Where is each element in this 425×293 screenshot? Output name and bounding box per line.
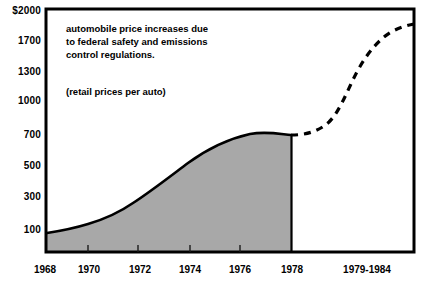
x-tick-label-1970: 1970 bbox=[78, 265, 100, 275]
line-projected bbox=[291, 24, 414, 135]
x-tick-label-1974: 1974 bbox=[179, 265, 201, 275]
chart-annotation-main: automobile price increases due to federa… bbox=[66, 22, 208, 61]
chart-plot bbox=[0, 0, 425, 293]
x-tick-label-1972: 1972 bbox=[129, 265, 151, 275]
x-tick-label-1976: 1976 bbox=[229, 265, 251, 275]
area-fill-actual bbox=[47, 133, 291, 252]
x-tick-label-1978: 1978 bbox=[281, 265, 303, 275]
x-tick-label-1979-1984: 1979-1984 bbox=[343, 265, 391, 275]
chart-container: $2000 1700 1300 1000 700 500 300 100 aut… bbox=[0, 0, 425, 293]
chart-annotation-sub: (retail prices per auto) bbox=[66, 85, 166, 98]
x-tick-label-1968: 1968 bbox=[34, 265, 56, 275]
